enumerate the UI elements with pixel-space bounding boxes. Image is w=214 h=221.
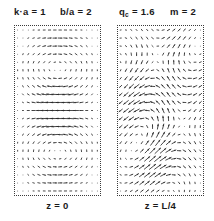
parameter-m: m = 2	[170, 6, 196, 18]
quiver-plot-z-0	[14, 25, 101, 196]
panel-caption-z-L4: z = L/4	[117, 200, 204, 212]
figure-root: k·a = 1 b/a = 2 qc = 1.6 m = 2 z = 0 z =…	[0, 0, 214, 221]
panel-caption-z-0: z = 0	[14, 200, 101, 212]
parameter-row: k·a = 1 b/a = 2 qc = 1.6 m = 2	[0, 6, 214, 22]
panel-container: z = 0 z = L/4	[0, 25, 214, 221]
parameter-b-a: b/a = 2	[60, 6, 92, 18]
parameter-q-c: qc = 1.6	[119, 6, 155, 19]
parameter-k-a: k·a = 1	[14, 6, 46, 18]
quiver-plot-z-L4	[117, 25, 204, 196]
